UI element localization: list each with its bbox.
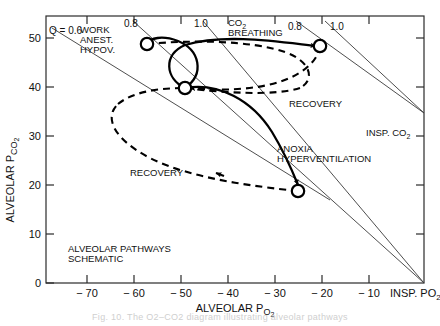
o2-co2-diagram-figure: 50 40 30 20 10 0 − 70 − 60 − 50 − 40 − 3… — [0, 0, 440, 326]
svg-text:INSP. PO2: INSP. PO2 — [390, 287, 440, 302]
label-insp-co2-main: INSP. CO — [366, 127, 406, 138]
label-recovery-upper: RECOVERY — [289, 98, 343, 109]
label-anoxia-line2: HYPERVENTILATION — [277, 153, 371, 164]
label-r-10-left: 1.0 — [194, 18, 208, 29]
x-origin-label-main: INSP. P — [390, 287, 428, 299]
y-axis-title-sub2: 2 — [13, 137, 20, 141]
y-tick-label: 40 — [29, 81, 41, 93]
x-tick-labels: − 70 − 60 − 50 − 40 − 30 − 20 − 10 — [76, 287, 380, 299]
curve-lower-recovery-back — [118, 88, 185, 104]
y-tick-label: 20 — [29, 179, 41, 191]
plot-canvas: 50 40 30 20 10 0 − 70 − 60 − 50 − 40 − 3… — [0, 0, 440, 326]
curve-co2-breathing — [169, 39, 316, 88]
label-recovery-lower: RECOVERY — [130, 167, 184, 178]
x-tick-label: − 30 — [264, 287, 286, 299]
x-tick-label: − 40 — [217, 287, 239, 299]
marker-work-anest-hypov — [141, 38, 153, 50]
marker-normal-resting — [179, 82, 191, 94]
y-tick-label: 30 — [29, 130, 41, 142]
x-origin-label: INSP. PO2 — [390, 287, 440, 302]
marker-anoxia — [292, 185, 304, 197]
label-r-10-right: 1.0 — [330, 21, 344, 32]
label-insp-co2-sub: 2 — [406, 133, 410, 140]
curve-anoxia-hyperventilation — [185, 87, 298, 185]
label-hypov: HYPOV. — [80, 44, 115, 55]
x-tick-label: − 20 — [311, 287, 333, 299]
plot-annotations: Q = 0.6 0.8 1.0 0.8 1.0 WORK ANEST. HYPO… — [49, 17, 410, 264]
label-q-06: Q = 0.6 — [49, 25, 83, 36]
x-origin-label-sub2: 2 — [436, 293, 440, 302]
x-tick-label: − 10 — [358, 287, 380, 299]
label-r-08-left: 0.8 — [124, 18, 138, 29]
y-tick-label: 10 — [29, 228, 41, 240]
svg-text:ALVEOLAR PCO2: ALVEOLAR PCO2 — [4, 137, 20, 222]
y-tick-label: 0 — [35, 277, 41, 289]
y-axis-title-main: ALVEOLAR P — [4, 155, 16, 223]
label-r-08-right: 0.8 — [288, 21, 302, 32]
figure-caption-partial: Fig. 10. The O2–CO2 diagram illustrating… — [0, 312, 440, 326]
y-axis-title-sub: CO — [9, 141, 19, 155]
svg-text:INSP. CO2: INSP. CO2 — [366, 127, 410, 140]
y-tick-label: 50 — [29, 32, 41, 44]
label-schematic-line2: SCHEMATIC — [68, 253, 123, 264]
x-tick-label: − 50 — [170, 287, 192, 299]
marker-co2-breathing — [314, 40, 326, 52]
x-tick-label: − 70 — [76, 287, 98, 299]
y-tick-labels: 50 40 30 20 10 0 — [29, 32, 41, 289]
label-co2-breathing-line2: BREATHING — [228, 27, 283, 38]
x-tick-label: − 60 — [123, 287, 145, 299]
curve-work-anest-hypov — [147, 38, 198, 88]
y-axis-title: ALVEOLAR PCO2 — [4, 137, 20, 222]
curve-lower-recovery-arrow — [216, 173, 224, 176]
